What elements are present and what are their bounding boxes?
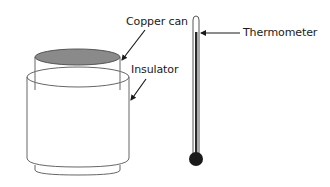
copper-can-label: Copper can bbox=[126, 16, 188, 28]
thermometer-label: Thermometer bbox=[243, 27, 317, 39]
thermometer-column bbox=[195, 32, 197, 156]
insulator-label: Insulator bbox=[131, 64, 178, 76]
insulator-arrow bbox=[131, 79, 146, 100]
copper-can-top bbox=[35, 49, 120, 65]
copper-can bbox=[35, 49, 120, 90]
thermometer bbox=[189, 16, 203, 166]
thermometer-bulb bbox=[189, 152, 203, 166]
insulator bbox=[27, 67, 129, 175]
copper-can-arrow bbox=[122, 30, 145, 60]
